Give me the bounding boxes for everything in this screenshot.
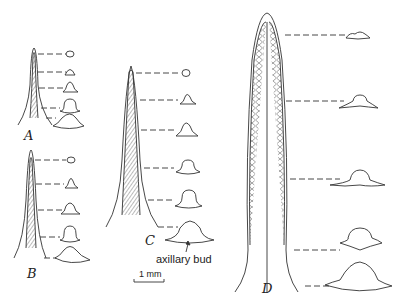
panel-d-sections [325, 32, 392, 291]
panel-label-a: A [24, 128, 33, 143]
panel-b-leaf [14, 150, 46, 258]
panel-c-leaf [106, 66, 158, 227]
panel-label-d: D [262, 281, 272, 296]
axillary-bud-arrow [186, 244, 188, 252]
arrowhead-icon [186, 241, 190, 245]
axillary-bud-label: axillary bud [156, 253, 212, 265]
panel-label-c: C [145, 233, 155, 248]
panel-a-sections [53, 51, 84, 129]
panel-d-guides [285, 35, 345, 286]
panel-c-sections [165, 70, 214, 244]
panel-d-leaf [235, 13, 298, 292]
scale-bar [134, 279, 164, 282]
panel-a-leaf [18, 48, 52, 125]
scale-bar-label: 1 mm [139, 269, 162, 279]
panel-a-guides [38, 54, 66, 118]
panel-label-b: B [27, 266, 37, 281]
panel-c-guides [136, 73, 180, 227]
panel-b-guides [35, 160, 66, 258]
